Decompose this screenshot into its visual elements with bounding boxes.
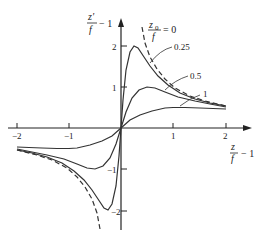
svg-text:= 0: = 0 bbox=[163, 24, 176, 35]
leader-0.5 bbox=[165, 76, 188, 90]
x-tick-label: −1 bbox=[64, 131, 74, 141]
curve-label-1: 1 bbox=[203, 89, 208, 99]
svg-text:− 1: − 1 bbox=[99, 18, 112, 29]
svg-text:f: f bbox=[231, 153, 235, 164]
y-axis-label: z' f − 1 bbox=[87, 11, 112, 35]
svg-text:0: 0 bbox=[155, 24, 159, 32]
y-tick-label: 2 bbox=[112, 42, 117, 52]
chart: −2 −1 1 2 2 1 −1 −2 z' f − 1 z f − 1 z 0… bbox=[0, 0, 271, 246]
curve-z0-0.25 bbox=[121, 46, 226, 128]
svg-text:z: z bbox=[148, 19, 153, 30]
x-tick-label: 1 bbox=[171, 131, 176, 141]
leader-0.25 bbox=[150, 47, 172, 63]
y-tick-label: −1 bbox=[107, 165, 117, 175]
svg-text:− 1: − 1 bbox=[241, 148, 254, 159]
y-tick-label: 1 bbox=[112, 83, 117, 93]
x-axis-label: z f − 1 bbox=[230, 141, 254, 164]
svg-text:f: f bbox=[89, 24, 93, 35]
param-label: z 0 f = 0 bbox=[148, 19, 176, 42]
curve-label-0.5: 0.5 bbox=[190, 71, 202, 81]
x-axis-arrow-icon bbox=[243, 125, 252, 131]
y-axis-arrow-icon bbox=[118, 18, 124, 27]
svg-text:z': z' bbox=[87, 11, 95, 22]
x-tick-label: 2 bbox=[223, 131, 228, 141]
svg-text:z: z bbox=[230, 141, 235, 152]
y-tick-label: −2 bbox=[111, 207, 121, 217]
svg-text:f: f bbox=[152, 31, 156, 42]
curve-label-0.25: 0.25 bbox=[174, 42, 190, 52]
x-tick-label: −2 bbox=[12, 131, 22, 141]
